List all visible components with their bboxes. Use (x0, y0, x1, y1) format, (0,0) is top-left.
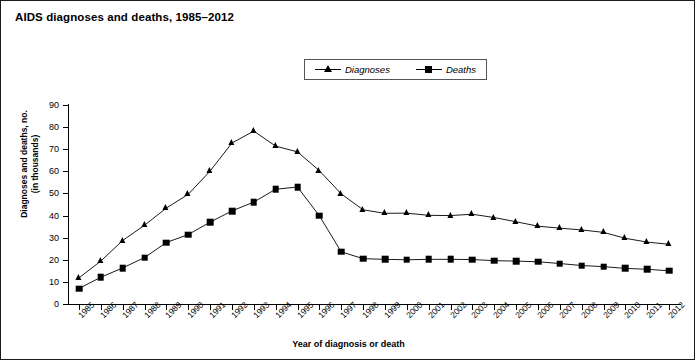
y-tick-label: 70 (37, 144, 59, 154)
data-point-deaths (272, 186, 279, 193)
data-point-deaths (425, 256, 432, 263)
y-tick-label: 60 (37, 166, 59, 176)
y-tick-label: 90 (37, 100, 59, 110)
data-point-deaths (644, 266, 651, 273)
series-lines (68, 105, 680, 304)
data-point-deaths (338, 249, 345, 256)
y-tick-label: 40 (37, 211, 59, 221)
data-point-diagnoses (294, 148, 300, 154)
y-axis-title: Diagnoses and deaths, no. (in thousands) (19, 69, 41, 259)
data-point-diagnoses (97, 257, 103, 263)
y-tick-label: 30 (37, 233, 59, 243)
y-tick-mark (63, 304, 68, 305)
data-point-diagnoses (403, 209, 409, 215)
data-point-diagnoses (272, 142, 278, 148)
y-tick-label: 0 (37, 299, 59, 309)
y-axis-title-line1: Diagnoses and deaths, no. (19, 110, 29, 218)
triangle-marker-icon (315, 65, 341, 74)
data-point-deaths (97, 274, 104, 281)
plot-area (68, 105, 680, 304)
data-point-diagnoses (600, 228, 606, 234)
y-tick-label: 10 (37, 277, 59, 287)
data-point-diagnoses (491, 214, 497, 220)
y-tick-label: 20 (37, 255, 59, 265)
legend-label-diagnoses: Diagnoses (345, 64, 390, 75)
data-point-deaths (513, 258, 520, 265)
series-line-deaths (79, 187, 669, 288)
legend-label-deaths: Deaths (446, 64, 476, 75)
data-point-deaths (119, 265, 126, 272)
data-point-diagnoses (338, 190, 344, 196)
data-point-diagnoses (228, 139, 234, 145)
legend-item-diagnoses: Diagnoses (315, 64, 390, 75)
data-point-diagnoses (359, 206, 365, 212)
data-point-diagnoses (316, 167, 322, 173)
data-point-diagnoses (665, 240, 671, 246)
data-point-deaths (382, 256, 389, 263)
data-point-diagnoses (163, 204, 169, 210)
data-point-diagnoses (534, 222, 540, 228)
data-point-deaths (491, 257, 498, 264)
square-marker-icon (416, 65, 442, 74)
page-title: AIDS diagnoses and deaths, 1985–2012 (15, 11, 234, 23)
data-point-deaths (360, 255, 367, 262)
data-point-deaths (666, 268, 673, 275)
data-point-diagnoses (512, 218, 518, 224)
y-tick-label: 50 (37, 188, 59, 198)
data-point-deaths (229, 208, 236, 215)
data-point-diagnoses (425, 211, 431, 217)
data-point-deaths (141, 254, 148, 261)
data-point-deaths (207, 219, 214, 226)
data-point-deaths (578, 262, 585, 269)
data-point-deaths (250, 199, 257, 206)
data-point-deaths (600, 263, 607, 270)
data-point-diagnoses (250, 127, 256, 133)
legend-item-deaths: Deaths (416, 64, 476, 75)
data-point-diagnoses (381, 209, 387, 215)
data-point-diagnoses (469, 210, 475, 216)
data-point-deaths (556, 260, 563, 267)
data-point-diagnoses (119, 237, 125, 243)
data-point-deaths (469, 256, 476, 263)
data-point-diagnoses (206, 167, 212, 173)
data-point-deaths (403, 256, 410, 263)
data-point-diagnoses (622, 234, 628, 240)
chart-legend: Diagnoses Deaths (304, 59, 487, 80)
data-point-diagnoses (578, 226, 584, 232)
data-point-diagnoses (185, 190, 191, 196)
data-point-diagnoses (644, 238, 650, 244)
data-point-deaths (447, 256, 454, 263)
chart-figure: AIDS diagnoses and deaths, 1985–2012 Dia… (0, 0, 695, 360)
data-point-diagnoses (75, 274, 81, 280)
data-point-deaths (535, 258, 542, 265)
data-point-deaths (185, 231, 192, 238)
x-axis-title: Year of diagnosis or death (1, 339, 695, 349)
data-point-deaths (163, 239, 170, 246)
data-point-deaths (76, 285, 83, 292)
data-point-diagnoses (447, 212, 453, 218)
y-tick-label: 80 (37, 122, 59, 132)
data-point-deaths (316, 212, 323, 219)
data-point-diagnoses (556, 224, 562, 230)
data-point-deaths (294, 184, 301, 191)
data-point-deaths (622, 265, 629, 272)
data-point-diagnoses (141, 221, 147, 227)
